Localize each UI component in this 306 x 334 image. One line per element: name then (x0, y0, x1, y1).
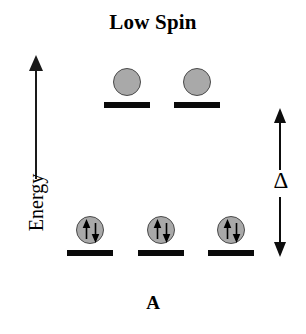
panel-label: A (0, 292, 306, 314)
splitting-energy-annotation: Δ (268, 108, 294, 258)
orbital-lower-2 (147, 216, 175, 244)
orbital-lower-3 (217, 216, 245, 244)
orbital-lower-1 (76, 216, 104, 244)
orbital-bar-lower-2 (138, 250, 184, 256)
crystal-field-splitting-diagram: Low Spin Energy (0, 0, 306, 334)
orbital-bar-lower-1 (67, 250, 113, 256)
splitting-arrow-lower-shaft (279, 197, 281, 243)
status-badge: Δ (268, 168, 294, 194)
arrow-down-icon (274, 242, 286, 257)
arrow-up-icon (274, 108, 286, 123)
orbital-bar-lower-3 (208, 250, 254, 256)
splitting-arrow-upper-shaft (279, 122, 281, 170)
lower-orbital-level (0, 0, 306, 270)
